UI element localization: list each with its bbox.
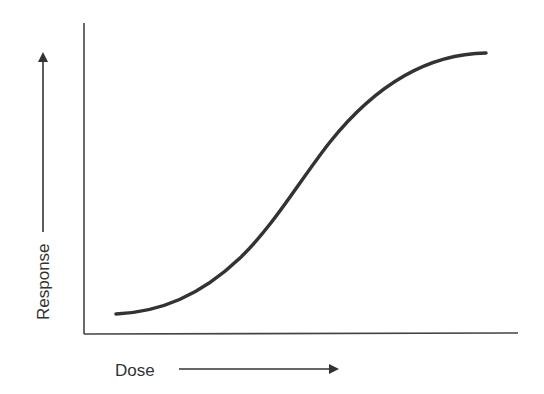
x-axis-label: Dose [115,361,155,380]
dose-response-chart: Response Dose [0,0,544,394]
dose-response-curve [116,53,486,314]
x-axis [84,333,518,334]
y-axis-label: Response [34,243,53,320]
